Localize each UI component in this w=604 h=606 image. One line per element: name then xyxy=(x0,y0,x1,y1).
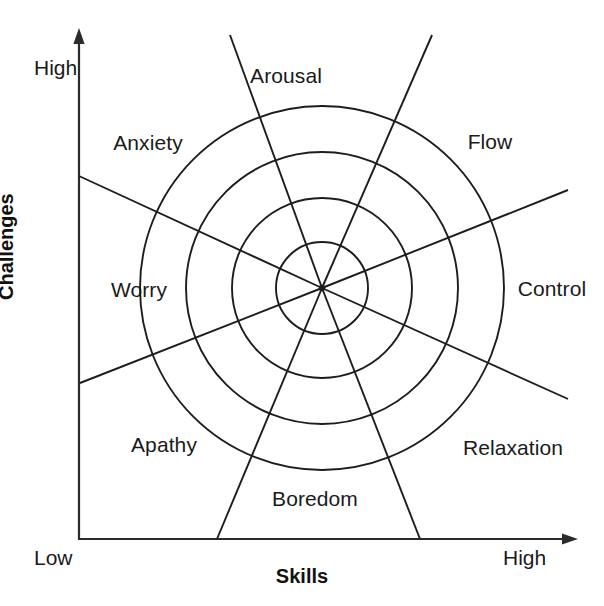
spoke-anxiety-worry xyxy=(79,176,322,288)
sector-label-control: Control xyxy=(518,278,586,299)
spoke-worry-apathy xyxy=(80,288,322,383)
y-axis-title: Challenges xyxy=(0,193,16,300)
sector-label-boredom: Boredom xyxy=(272,488,358,509)
sector-label-relaxation: Relaxation xyxy=(463,437,563,458)
x-axis xyxy=(79,533,578,544)
center-hub xyxy=(319,285,325,291)
x-axis-title: Skills xyxy=(276,566,328,586)
sector-label-apathy: Apathy xyxy=(131,434,197,455)
x-axis-low-label: Low xyxy=(34,547,73,568)
sector-label-anxiety: Anxiety xyxy=(113,132,183,153)
y-axis xyxy=(73,28,84,540)
x-axis-high-label: High xyxy=(503,547,546,568)
x-axis-arrow-icon xyxy=(562,533,578,544)
sector-label-flow: Flow xyxy=(468,131,513,152)
sector-label-arousal: Arousal xyxy=(250,65,322,86)
y-axis-high-label: High xyxy=(34,57,77,78)
flow-model-svg xyxy=(0,0,604,606)
y-axis-arrow-icon xyxy=(73,28,84,44)
diagram-canvas: Arousal Flow Control Relaxation Boredom … xyxy=(0,0,604,606)
sector-label-worry: Worry xyxy=(111,279,167,300)
